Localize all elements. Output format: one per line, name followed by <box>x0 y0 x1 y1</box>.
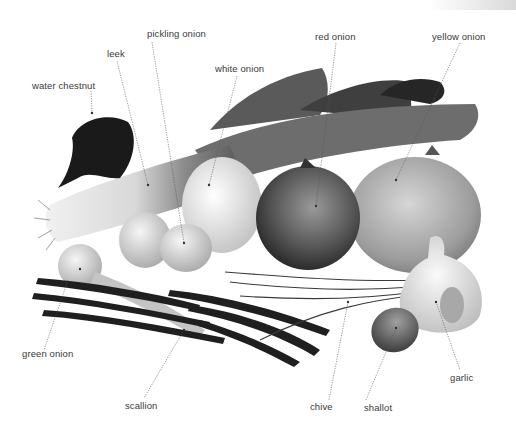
yellow-onion-shape <box>349 157 481 273</box>
label-garlic: garlic <box>450 372 473 383</box>
label-yellow-onion: yellow onion <box>432 31 485 42</box>
label-water-chestnut: water chestnut <box>32 80 95 91</box>
label-pickling-onion: pickling onion <box>147 28 206 39</box>
label-scallion: scallion <box>125 400 157 411</box>
yellow-onion-top <box>425 145 440 155</box>
label-white-onion: white onion <box>215 63 264 74</box>
garlic-clove <box>440 287 464 323</box>
label-leek: leek <box>107 48 125 59</box>
label-green-onion: green onion <box>22 348 73 359</box>
label-shallot: shallot <box>364 402 392 413</box>
pickling-onion-right <box>160 224 212 272</box>
red-onion-shape <box>256 166 360 270</box>
label-red-onion: red onion <box>315 31 356 42</box>
label-chive: chive <box>310 401 333 412</box>
